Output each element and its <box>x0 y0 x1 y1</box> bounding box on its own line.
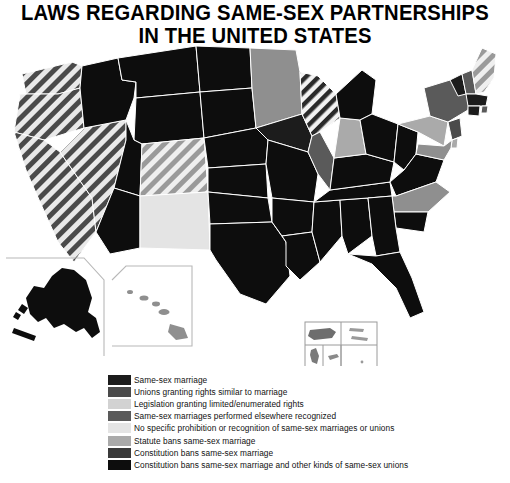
legend-label: Statute bans same-sex marriage <box>134 436 255 446</box>
legend-row[interactable]: No specific prohibition or recognition o… <box>108 422 438 434</box>
state-MA <box>466 94 488 106</box>
state-CT <box>468 106 480 116</box>
inset-alaska <box>6 258 104 356</box>
us-map-svg <box>0 36 510 366</box>
legend-label: Same-sex marriages performed elsewhere r… <box>134 411 336 421</box>
legend-label: Same-sex marriage <box>134 375 207 385</box>
legend-swatch <box>108 411 131 421</box>
legend-row[interactable]: Same-sex marriage <box>108 374 438 386</box>
legend-swatch <box>108 399 131 409</box>
state-FL <box>348 252 424 318</box>
legend-label: Constitution bans same-sex marriage and … <box>134 460 408 470</box>
map-legend: Same-sex marriageUnions granting rights … <box>108 374 438 471</box>
title-line-1: LAWS REGARDING SAME-SEX PARTNERSHIPS <box>15 2 494 25</box>
legend-swatch <box>108 387 131 397</box>
legend-row[interactable]: Same-sex marriages performed elsewhere r… <box>108 410 438 422</box>
title-line-2: IN THE UNITED STATES <box>15 25 494 48</box>
legend-label: Constitution bans same-sex marriage <box>134 448 273 458</box>
state-RI <box>481 106 488 113</box>
legend-swatch <box>108 423 131 433</box>
state-CO <box>140 138 208 196</box>
legend-label: No specific prohibition or recognition o… <box>134 423 394 433</box>
legend-swatch <box>108 375 131 385</box>
state-OR <box>14 88 84 140</box>
state-ME <box>472 48 496 94</box>
state-TX <box>210 222 290 304</box>
legend-label: Legislation granting limited/enumerated … <box>134 399 304 409</box>
map-infographic: LAWS REGARDING SAME-SEX PARTNERSHIPS IN … <box>0 0 510 483</box>
legend-swatch <box>108 448 131 458</box>
us-map <box>0 36 510 366</box>
state-NM <box>140 192 210 250</box>
legend-row[interactable]: Unions granting rights similar to marria… <box>108 386 438 398</box>
legend-swatch <box>108 436 131 446</box>
state-AR <box>272 198 314 236</box>
state-NJ <box>448 118 462 140</box>
inset-territories <box>305 322 377 366</box>
legend-swatch <box>108 460 131 470</box>
page-title: LAWS REGARDING SAME-SEX PARTNERSHIPS IN … <box>0 2 510 48</box>
state-ND <box>196 46 252 92</box>
legend-row[interactable]: Legislation granting limited/enumerated … <box>108 398 438 410</box>
hawaii-islands <box>127 290 188 340</box>
state-SC <box>394 212 428 232</box>
state-WA <box>22 62 82 94</box>
legend-label: Unions granting rights similar to marria… <box>134 387 287 397</box>
legend-row[interactable]: Constitution bans same-sex marriage and … <box>108 459 438 471</box>
state-AL <box>340 198 372 254</box>
alaska-shape <box>26 268 100 338</box>
inset-hawaii <box>112 266 192 346</box>
legend-row[interactable]: Statute bans same-sex marriage <box>108 434 438 446</box>
legend-row[interactable]: Constitution bans same-sex marriage <box>108 447 438 459</box>
state-WY <box>134 92 204 144</box>
state-MI <box>336 70 376 120</box>
